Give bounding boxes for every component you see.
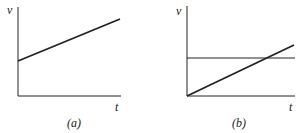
panel-a-x-label: t — [115, 100, 119, 114]
panel-b-y-label: v — [176, 4, 182, 18]
figure: v t (a) v t (b) — [0, 0, 296, 133]
panel-a-velocity-line — [18, 19, 120, 61]
panel-a-caption: (a) — [67, 116, 81, 130]
panel-b-accelerating-line — [187, 45, 294, 96]
panel-b-caption: (b) — [232, 116, 246, 130]
panel-b: v t (b) — [176, 4, 295, 130]
panel-b-x-label: t — [289, 100, 293, 114]
panel-a: v t (a) — [7, 3, 121, 130]
panel-a-y-label: v — [7, 3, 13, 17]
